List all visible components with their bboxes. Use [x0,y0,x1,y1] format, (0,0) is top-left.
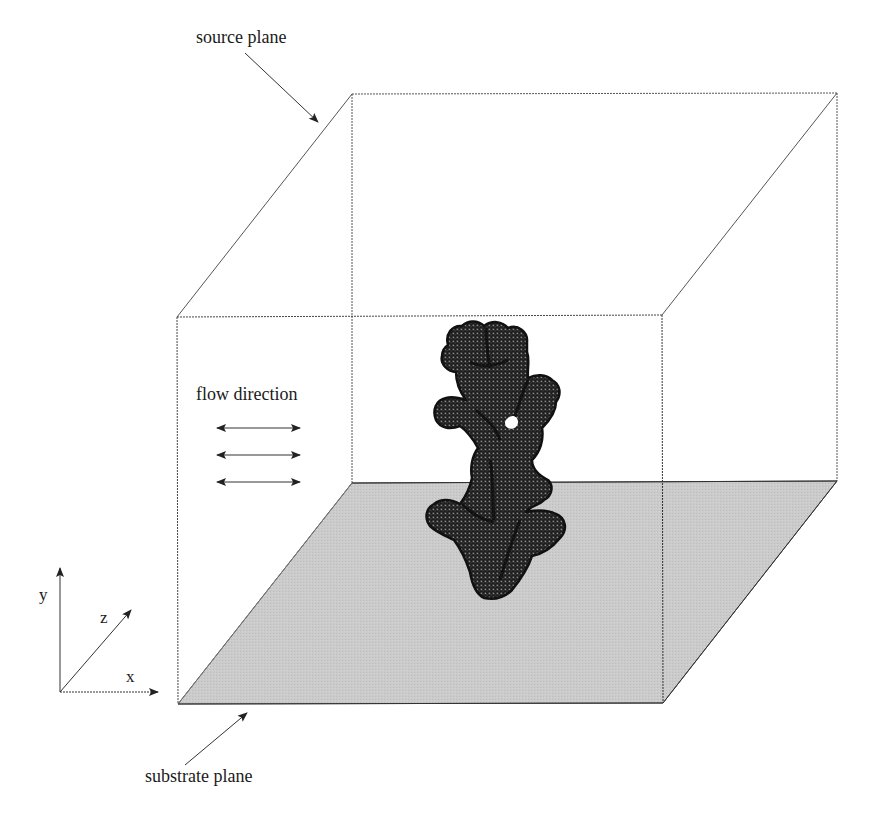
x-axis-label: x [126,668,135,685]
substrate-plane-arrow [185,713,247,765]
domain-diagram [0,0,880,819]
z-axis-arrow [60,610,131,692]
box-back-edges [352,93,837,483]
substrate-plane-label: substrate plane [145,767,252,785]
y-axis-label: y [39,586,48,603]
coordinate-axes [60,568,158,692]
flow-direction-label: flow direction [196,385,297,403]
flow-direction-arrows [217,428,300,482]
z-axis-label: z [100,609,108,626]
source-plane-label: source plane [196,28,286,46]
source-plane-arrow [245,53,318,122]
